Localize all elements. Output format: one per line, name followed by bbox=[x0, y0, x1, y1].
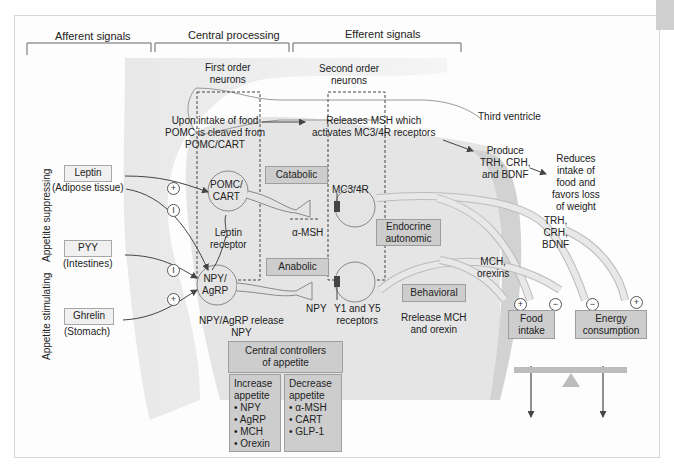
inhibit-sign-icon: I bbox=[167, 204, 180, 217]
list-item: • CART bbox=[289, 414, 337, 426]
npy-agrp-cell: NPY/AgRP bbox=[202, 273, 228, 297]
inhibit-sign-icon: I bbox=[167, 264, 180, 277]
list-item: • MCH bbox=[234, 426, 276, 438]
list-item: • Orexin bbox=[234, 438, 276, 450]
anabolic-box: Anabolic bbox=[266, 258, 329, 276]
appetite-stimulating-label: Appetite stimulating bbox=[41, 273, 52, 360]
release-mch-note: Rrelease MCHand orexin bbox=[401, 312, 467, 336]
leptin-receptor-label: Leptinreceptor bbox=[210, 227, 247, 251]
central-bracket bbox=[155, 43, 289, 52]
signal-leptin-source: (Adipose tissue) bbox=[52, 182, 124, 194]
header-central: Central processing bbox=[188, 29, 280, 41]
plus-sign-icon: + bbox=[630, 296, 643, 309]
second-order-label: Second orderneurons bbox=[319, 63, 379, 87]
npy-label: NPY bbox=[306, 303, 327, 315]
decrease-appetite-list: Decrease appetite • α-MSH • CART • GLP-1 bbox=[284, 374, 342, 452]
y1-y5-label: Y1 and Y5receptors bbox=[334, 303, 381, 327]
appetite-suppressing-label: Appetite suppressing bbox=[41, 169, 52, 262]
third-ventricle-label: Third ventricle bbox=[478, 111, 541, 123]
signal-pyy: PYY bbox=[64, 240, 112, 257]
efferent-bracket bbox=[293, 43, 461, 52]
npy-agrp-release-note: NPY/AgRP releaseNPY bbox=[199, 315, 284, 339]
header-afferent: Afferent signals bbox=[55, 30, 131, 42]
first-order-label: First orderneurons bbox=[205, 62, 251, 86]
endocrine-autonomic-box: Endocrineautonomic bbox=[376, 219, 441, 246]
mch-orexins-label: MCH,orexins bbox=[477, 256, 509, 280]
signal-pyy-source: (Intestines) bbox=[63, 258, 112, 270]
reduces-note: Reducesintake offood andfavors lossof we… bbox=[552, 153, 600, 213]
header-efferent: Efferent signals bbox=[345, 28, 421, 40]
plus-sign-icon: + bbox=[167, 293, 180, 306]
increase-appetite-list: Increase appetite • NPY • AgRP • MCH • O… bbox=[229, 374, 281, 452]
signal-ghrelin: Ghrelin bbox=[64, 308, 114, 325]
afferent-bracket bbox=[27, 43, 151, 55]
decrease-title: appetite bbox=[289, 390, 337, 402]
pomc-cart-cell: POMC/CART bbox=[210, 179, 243, 203]
behavioral-box: Behavioral bbox=[402, 284, 466, 302]
food-intake-box: Foodintake bbox=[508, 310, 555, 339]
energy-consumption-box: Energyconsumption bbox=[575, 310, 647, 339]
releases-msh-note: Releases MSH whichactivates MC3/4R recep… bbox=[312, 115, 435, 139]
catabolic-box: Catabolic bbox=[265, 166, 328, 184]
alpha-msh-label: α-MSH bbox=[292, 227, 323, 239]
decrease-title: Decrease bbox=[289, 378, 337, 390]
produce-note: ProduceTRH, CRH,and BDNF bbox=[480, 145, 531, 181]
signal-ghrelin-source: (Stomach) bbox=[64, 326, 110, 338]
list-item: • AgRP bbox=[234, 414, 276, 426]
list-item: • α-MSH bbox=[289, 402, 337, 414]
list-item: • NPY bbox=[234, 402, 276, 414]
pomc-intake-note: Upon intake of foodPOMC is cleaved fromP… bbox=[165, 115, 265, 151]
mc34r-label: MC3/4R bbox=[332, 184, 369, 196]
central-controllers-title: Central controllersof appetite bbox=[228, 341, 343, 373]
plus-sign-icon: + bbox=[167, 182, 180, 195]
trh-crh-bdnf-label: TRH,CRH,BDNF bbox=[542, 215, 569, 251]
signal-leptin: Leptin bbox=[64, 165, 112, 182]
increase-title: Increase bbox=[234, 378, 276, 390]
increase-title: appetite bbox=[234, 390, 276, 402]
list-item: • GLP-1 bbox=[289, 426, 337, 438]
